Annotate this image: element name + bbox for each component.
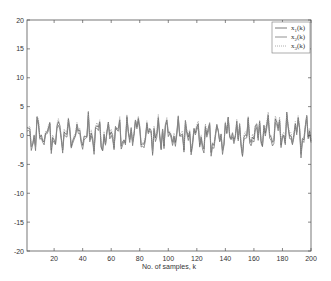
x-tick-label: 140 [220,255,232,262]
y-tick-label: -15 [14,219,24,226]
y-tick-label: -10 [14,190,24,197]
x-axis-label: No. of samples, k [142,263,197,271]
y-tick-label: 10 [16,74,24,81]
legend: x1(k)x2(k)x3(k) [272,22,310,53]
series-line-2 [27,115,311,158]
x-tick-label: 20 [50,255,58,262]
x-tick-label: 180 [277,255,289,262]
legend-item-label: x3(k) [291,42,306,51]
y-tick-label: -20 [14,248,24,255]
x-tick-label: 80 [136,255,144,262]
legend-item-label: x1(k) [291,24,306,33]
y-tick-label: 20 [16,17,24,24]
x-tick-label: 60 [107,255,115,262]
y-tick-label: 5 [20,103,24,110]
x-tick-label: 160 [248,255,260,262]
y-tick-label: 0 [20,132,24,139]
line-chart: -20-15-10-505101520 20406080100120140160… [0,0,331,281]
y-tick-label: -5 [18,161,24,168]
plot-signals [27,111,311,158]
x-tick-label: 120 [191,255,203,262]
x-tick-label: 40 [79,255,87,262]
y-tick-label: 15 [16,45,24,52]
legend-item-label: x2(k) [291,33,306,42]
x-tick-label: 100 [162,255,174,262]
x-tick-label: 200 [305,255,317,262]
